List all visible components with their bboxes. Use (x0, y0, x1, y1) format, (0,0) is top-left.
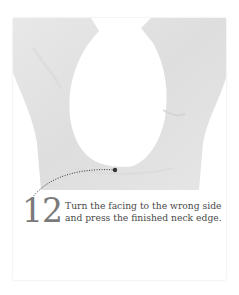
step-text-line-2: and press the finished neck edge. (65, 212, 222, 224)
neckline-illustration (13, 18, 226, 190)
step-instruction: 12 Turn the facing to the wrong side and… (22, 197, 222, 225)
step-text: Turn the facing to the wrong side and pr… (65, 200, 222, 225)
fabric-photo (13, 18, 226, 190)
instruction-card: 12 Turn the facing to the wrong side and… (13, 18, 226, 280)
step-number: 12 (22, 197, 62, 225)
step-text-line-1: Turn the facing to the wrong side (65, 200, 222, 212)
